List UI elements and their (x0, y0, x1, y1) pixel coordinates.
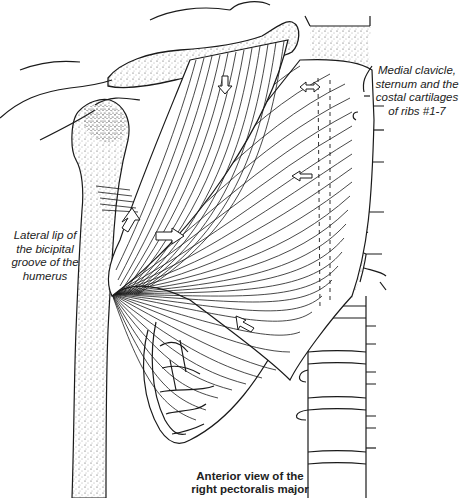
origin-label-line: of ribs #1-7 (368, 105, 466, 119)
figure-caption: Anterior view of the right pectoralis ma… (150, 470, 350, 496)
origin-label-line: costal cartilages (368, 91, 466, 105)
caption-line: right pectoralis major (150, 483, 350, 496)
insertion-label: Lateral lip of the bicipital groove of t… (0, 229, 90, 283)
caption-line: Anterior view of the (150, 470, 350, 483)
origin-label-line: sternum and the (368, 78, 466, 92)
insertion-label-line: Lateral lip of (0, 229, 90, 243)
insertion-label-line: groove of the (0, 256, 90, 270)
origin-label: Medial clavicle, sternum and the costal … (368, 64, 466, 118)
origin-label-line: Medial clavicle, (368, 64, 466, 78)
insertion-label-line: humerus (0, 270, 90, 284)
insertion-label-line: the bicipital (0, 243, 90, 257)
